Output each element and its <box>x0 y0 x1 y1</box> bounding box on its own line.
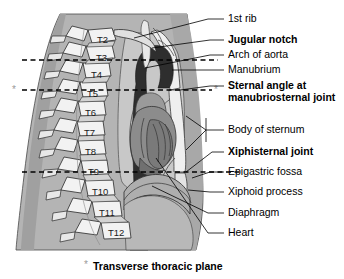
label-manubrium: Manubrium <box>228 63 281 75</box>
caption-marker: * <box>84 259 88 270</box>
label-sternal-angle-1: Sternal angle at <box>228 79 307 91</box>
caption-text: Transverse thoracic plane <box>93 260 223 272</box>
vertebra-label-t12: T12 <box>108 227 124 238</box>
annotation-labels: 1st rib Jugular notch Arch of aorta Manu… <box>228 12 336 238</box>
label-diaphragm: Diaphragm <box>228 206 280 218</box>
label-first-rib: 1st rib <box>228 12 257 24</box>
label-body-of-sternum: Body of sternum <box>228 123 305 135</box>
vertebra-label-t3: T3 <box>96 52 107 63</box>
vertebra-label-t11: T11 <box>99 207 115 218</box>
vertebra-label-t2: T2 <box>97 34 108 45</box>
label-sternal-angle-2: manubriosternal joint <box>228 91 336 103</box>
label-xiphoid-process: Xiphoid process <box>228 185 303 197</box>
vertebra-label-t7: T7 <box>84 127 95 138</box>
vertebra-label-t10: T10 <box>92 186 108 197</box>
label-jugular-notch: Jugular notch <box>228 33 297 45</box>
label-epigastric-fossa: Epigastric fossa <box>228 165 302 177</box>
vertebra-label-t4: T4 <box>91 69 102 80</box>
vertebra-label-t8: T8 <box>85 146 96 157</box>
label-heart: Heart <box>228 226 254 238</box>
label-xiphisternal-joint: Xiphisternal joint <box>228 145 314 157</box>
diaphragm <box>124 174 193 250</box>
plane-marker-left: * <box>12 84 16 95</box>
vertebra-label-t9: T9 <box>88 166 99 177</box>
figure-caption: * Transverse thoracic plane <box>84 259 223 272</box>
label-arch-of-aorta: Arch of aorta <box>228 48 288 60</box>
vertebra-label-t5: T5 <box>87 88 98 99</box>
thorax-sagittal-svg: * * <box>0 0 344 279</box>
anatomical-figure: * * <box>0 0 344 279</box>
vertebra-label-t6: T6 <box>85 107 96 118</box>
